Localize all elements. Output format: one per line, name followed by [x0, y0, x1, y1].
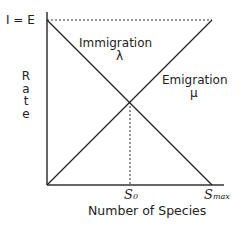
smax-label: Smax	[204, 188, 230, 203]
s0-main: S	[124, 187, 133, 202]
s0-sub: 0	[133, 192, 138, 201]
lambda-label: λ	[116, 50, 123, 63]
mu-label: μ	[190, 87, 198, 100]
y-axis-label: R a t e	[21, 70, 31, 120]
x-axis-label: Number of Species	[88, 204, 206, 217]
smax-main: S	[204, 187, 213, 202]
smax-sub: max	[213, 192, 230, 201]
ie-label: I = E	[6, 14, 35, 27]
rate-letter: t	[21, 95, 31, 108]
rate-letter: e	[21, 108, 31, 121]
rate-letter: R	[21, 70, 31, 83]
s0-label: S0	[124, 188, 138, 203]
